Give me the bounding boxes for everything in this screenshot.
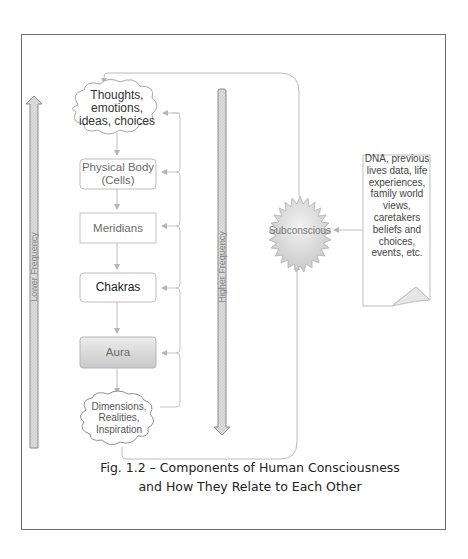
caption-line-2: and How They Relate to Each Other [100,477,400,496]
meridians-label: Meridians [80,213,156,243]
subconscious-label: Subconscious [266,222,334,238]
chakras-label: Chakras [80,273,156,302]
caption-line-1: Fig. 1.2 – Components of Human Conscious… [100,458,400,477]
physical-body-label: Physical Body (Cells) [80,159,156,189]
thoughts-label: Thoughts, emotions, ideas, choices [74,86,160,130]
lower-frequency-label: Lower Frequency [29,227,39,307]
influences-note-label: DNA, previous lives data, life experienc… [364,156,430,256]
figure-caption: Fig. 1.2 – Components of Human Conscious… [100,458,400,496]
aura-label: Aura [80,337,156,368]
dimensions-label: Dimensions, Realities, Inspiration [88,398,150,438]
higher-frequency-label: Higher Frequency [217,227,227,307]
